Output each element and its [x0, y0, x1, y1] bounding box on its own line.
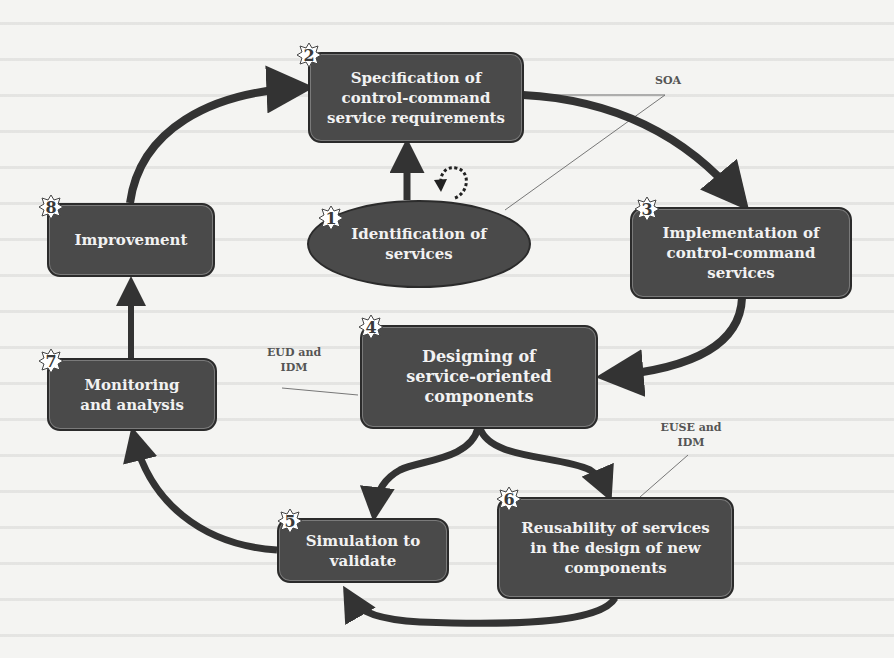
step-6-badge: 6 [496, 486, 522, 512]
arrow-6-to-5 [350, 598, 615, 623]
step-8-number: 8 [38, 194, 64, 220]
step-7-badge: 7 [38, 348, 64, 374]
step-3-badge: 3 [634, 196, 660, 222]
arrow-4-to-6 [480, 428, 606, 489]
step-7-label: Monitoring and analysis [67, 375, 197, 415]
step-7-number: 7 [38, 348, 64, 374]
arrow-2-to-3 [523, 95, 740, 200]
arrow-3-to-4 [610, 298, 742, 376]
step-2-number: 2 [296, 42, 322, 68]
step-7-box: Monitoring and analysis [47, 358, 217, 431]
step-1-number: 1 [318, 205, 344, 231]
step-5-number: 5 [277, 508, 303, 534]
soa-leader-line [505, 95, 665, 210]
step-8-box: Improvement [47, 203, 215, 277]
step-5-label: Simulation to validate [303, 531, 423, 571]
step-8-label: Improvement [75, 230, 188, 250]
annotation-soa: SOA [648, 73, 688, 88]
self-loop-arrowhead [434, 179, 447, 192]
eud-idm-leader-line [282, 388, 358, 395]
annotation-euse-idm: EUSE and IDM [660, 420, 722, 450]
step-2-label: Specification of control-command service… [320, 68, 512, 128]
arrow-4-to-5 [375, 428, 478, 508]
step-6-label: Reusability of services in the design of… [511, 518, 721, 578]
euse-idm-leader-line [640, 455, 688, 497]
step-2-box: Specification of control-command service… [308, 52, 524, 143]
step-3-number: 3 [634, 196, 660, 222]
step-4-box: Designing of service-oriented components [360, 325, 598, 429]
step-4-number: 4 [358, 314, 384, 340]
step-6-number: 6 [496, 486, 522, 512]
step-6-box: Reusability of services in the design of… [497, 497, 734, 599]
annotation-eud-idm: EUD and IDM [262, 345, 326, 375]
step-8-badge: 8 [38, 194, 64, 220]
step-3-label: Implementation of control-command servic… [642, 223, 840, 283]
step-1-badge: 1 [318, 205, 344, 231]
step-3-box: Implementation of control-command servic… [630, 207, 852, 299]
step-4-badge: 4 [358, 314, 384, 340]
arrow-5-to-7 [135, 440, 277, 550]
arrow-8-to-2 [130, 88, 300, 203]
step-2-badge: 2 [296, 42, 322, 68]
step-1-label: Identification of services [344, 224, 494, 264]
step-4-label: Designing of service-oriented components [394, 347, 564, 407]
step-5-badge: 5 [277, 508, 303, 534]
